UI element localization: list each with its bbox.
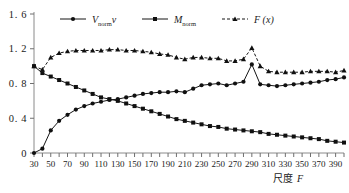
chart-axis-lines — [34, 12, 344, 153]
data-point-marker — [91, 101, 95, 105]
data-point-marker — [133, 104, 137, 108]
data-point-marker — [149, 109, 153, 113]
data-point-marker — [158, 112, 162, 116]
data-point-marker — [124, 101, 128, 105]
data-point-marker — [82, 88, 86, 92]
data-point-marker — [267, 132, 271, 136]
x-tick-label: 330 — [279, 159, 293, 169]
data-point-marker — [283, 83, 287, 87]
data-point-marker — [40, 147, 44, 151]
data-point-marker — [141, 107, 145, 111]
data-point-marker — [275, 133, 279, 137]
data-point-marker — [99, 95, 103, 99]
data-point-marker — [174, 89, 178, 93]
data-point-marker — [166, 115, 170, 119]
y-tick-label: 1. 6 — [9, 9, 27, 20]
data-point-marker — [250, 129, 254, 133]
data-point-marker — [283, 134, 287, 138]
data-point-marker — [149, 50, 154, 55]
x-tick-label: 70 — [63, 159, 73, 169]
x-tick-label: 230 — [195, 159, 209, 169]
data-point-marker — [49, 75, 53, 79]
series-m-norm — [32, 64, 346, 144]
data-point-marker — [66, 82, 70, 86]
data-point-marker — [174, 55, 179, 60]
data-point-marker — [300, 81, 304, 85]
x-tick-label: 50 — [46, 159, 56, 169]
data-point-marker — [158, 90, 162, 94]
data-point-marker — [174, 117, 178, 121]
data-point-marker — [325, 139, 329, 143]
data-point-marker — [99, 100, 103, 104]
data-point-marker — [342, 141, 346, 145]
data-point-marker — [40, 71, 44, 75]
data-point-marker — [258, 64, 263, 69]
data-point-marker — [32, 151, 36, 155]
data-point-marker — [153, 17, 157, 21]
series-v-normv — [32, 62, 346, 155]
series-line — [34, 64, 344, 153]
data-point-marker — [325, 78, 329, 82]
data-point-marker — [149, 91, 153, 95]
data-point-marker — [308, 136, 312, 140]
data-point-marker — [241, 128, 245, 132]
x-tick-label: 30 — [30, 159, 40, 169]
data-point-marker — [71, 17, 75, 21]
data-point-marker — [141, 92, 145, 96]
data-point-marker — [334, 140, 338, 144]
data-point-marker — [74, 85, 78, 89]
data-point-marker — [208, 124, 212, 128]
y-tick-label: 0. 8 — [9, 78, 27, 89]
legend-v-norm[interactable] — [60, 17, 86, 21]
series-f-x- — [31, 45, 346, 74]
data-point-marker — [233, 128, 237, 132]
x-tick-label: 90 — [80, 159, 90, 169]
data-point-marker — [49, 128, 53, 132]
x-tick-label: 350 — [295, 159, 309, 169]
data-point-marker — [200, 122, 204, 126]
x-tick-label: 370 — [312, 159, 326, 169]
data-point-marker — [258, 82, 262, 86]
legend-label-text: Mnorm — [173, 14, 196, 27]
data-point-marker — [308, 81, 312, 85]
x-tick-label: 250 — [212, 159, 226, 169]
data-point-marker — [266, 83, 270, 87]
data-point-marker — [65, 49, 70, 54]
data-point-marker — [342, 75, 346, 79]
x-tick-label: 270 — [228, 159, 242, 169]
data-point-marker — [208, 82, 212, 86]
y-tick-label: 0. 4 — [9, 113, 27, 124]
data-point-marker — [341, 68, 346, 73]
data-point-marker — [292, 82, 296, 86]
y-tick-label: 0 — [21, 148, 27, 159]
x-axis-title: 尺度F — [273, 172, 304, 184]
data-point-marker — [216, 81, 220, 85]
data-point-marker — [91, 92, 95, 96]
data-point-marker — [82, 104, 86, 108]
x-tick-label: 190 — [161, 159, 175, 169]
data-point-marker — [65, 113, 69, 117]
data-point-marker — [107, 97, 111, 101]
series-line — [34, 66, 344, 142]
data-point-marker — [225, 83, 229, 87]
x-tick-label: 390 — [329, 159, 343, 169]
data-point-marker — [191, 121, 195, 125]
data-point-marker — [300, 135, 304, 139]
data-point-marker — [292, 134, 296, 138]
chart-plot-area: 00. 40. 81. 21. 630507090110130150170190… — [0, 0, 349, 193]
x-tick-label: 150 — [128, 159, 142, 169]
legend-f-x[interactable] — [222, 16, 248, 21]
data-point-marker — [317, 137, 321, 141]
data-point-marker — [199, 83, 203, 87]
data-point-marker — [116, 99, 120, 103]
series-line — [34, 48, 344, 72]
data-point-marker — [233, 81, 237, 85]
data-point-marker — [258, 130, 262, 134]
x-tick-label: 130 — [111, 159, 125, 169]
x-tick-label: 170 — [145, 159, 159, 169]
data-point-marker — [275, 84, 279, 88]
data-point-marker — [124, 95, 128, 99]
data-point-marker — [183, 119, 187, 123]
data-point-marker — [249, 45, 254, 50]
legend-m-norm[interactable] — [142, 17, 168, 21]
